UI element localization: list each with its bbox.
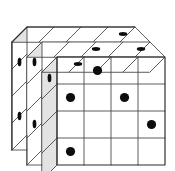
top-face-dot bbox=[92, 47, 100, 51]
left-face-dot bbox=[18, 112, 22, 120]
left-face-dot bbox=[48, 74, 52, 82]
isometric-cube-drawing bbox=[0, 0, 175, 171]
front-face-dot bbox=[147, 120, 156, 129]
front-face-dot bbox=[66, 147, 75, 156]
left-face-dot bbox=[33, 58, 37, 66]
left-face-dot bbox=[33, 120, 37, 128]
slab-1 bbox=[42, 57, 165, 171]
top-face-dot bbox=[119, 32, 127, 36]
top-face-dot bbox=[74, 62, 82, 66]
left-face-dot bbox=[18, 58, 22, 66]
front-face-dot bbox=[93, 66, 102, 75]
front-face-dot bbox=[120, 93, 129, 102]
front-face-dot bbox=[66, 93, 75, 102]
cube-figure: Isometric stacked cube puzzle diagram A … bbox=[0, 0, 175, 171]
top-face-dot bbox=[137, 47, 145, 51]
